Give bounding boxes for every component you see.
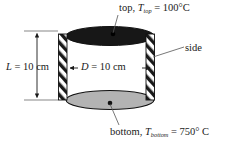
label-bottom-symbol: T [145, 126, 151, 137]
label-bottom-value: = 750° C [168, 126, 209, 137]
label-side: side [185, 43, 202, 54]
label-top-subscript: top [144, 7, 152, 14]
label-diameter-symbol: D [81, 61, 89, 72]
leader-side [153, 47, 184, 57]
cylinder-diagram: top, Ttop = 100°C side bottom, Tbottom =… [0, 0, 229, 144]
label-diameter: D = 10 cm [81, 62, 126, 73]
label-top-value: = 100°C [152, 2, 190, 13]
side-wall-left [59, 34, 68, 100]
top-disk [66, 27, 154, 46]
label-length: L = 10 cm [6, 62, 49, 73]
label-top-temperature: top, Ttop = 100°C [119, 3, 190, 14]
label-top-prefix: top, [119, 2, 138, 13]
side-wall-right [146, 34, 155, 100]
label-bottom-prefix: bottom, [110, 126, 145, 137]
label-bottom-temperature: bottom, Tbottom = 750° C [110, 127, 209, 138]
bottom-disk [66, 91, 154, 110]
label-top-symbol: T [138, 2, 144, 13]
label-bottom-subscript: bottom [151, 131, 169, 138]
label-diameter-value: = 10 cm [89, 61, 126, 72]
label-length-value: = 10 cm [12, 61, 49, 72]
